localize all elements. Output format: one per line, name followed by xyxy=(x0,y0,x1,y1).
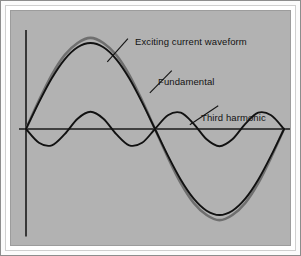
label-third-harmonic: Third harmonic xyxy=(201,113,266,123)
plot-field: Exciting current waveform Fundamental Th… xyxy=(10,10,291,246)
figure-root: Exciting current waveform Fundamental Th… xyxy=(0,0,301,256)
label-fundamental: Fundamental xyxy=(158,77,215,87)
label-exciting-current-waveform: Exciting current waveform xyxy=(135,37,247,47)
